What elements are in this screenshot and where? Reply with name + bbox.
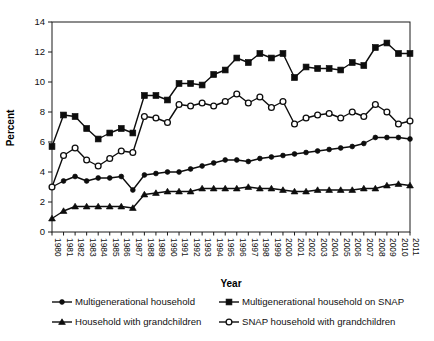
data-point-marker [396,51,402,57]
x-tick-label: 2005 [342,238,352,257]
y-tick-label: 0 [40,226,45,237]
data-point-marker [188,81,194,87]
data-point-marker [61,112,67,118]
data-point-marker [141,93,147,99]
data-point-marker [176,81,182,87]
x-tick-label: 2006 [353,238,363,257]
data-point-marker [96,176,101,181]
x-tick-label: 1995 [226,238,236,257]
x-tick-label: 1996 [238,238,248,257]
data-point-marker [153,93,159,99]
data-point-marker [407,51,413,57]
data-point-marker [245,100,251,106]
data-point-marker [73,174,78,179]
data-point-marker [130,150,136,156]
data-point-marker [234,55,240,61]
data-point-marker [165,170,170,175]
data-point-marker [72,145,78,151]
data-point-marker [222,99,228,105]
data-point-marker [107,176,112,181]
x-tick-label: 2007 [365,238,375,257]
data-point-marker [246,159,251,164]
data-point-marker [130,188,135,193]
series-2 [49,181,414,221]
x-tick-label: 1990 [169,238,179,257]
data-point-marker [327,147,332,152]
legend-item: SNAP household with grandchildren [219,316,395,327]
data-point-marker [257,94,263,100]
x-tick-label: 2004 [330,238,340,257]
x-axis-ticks: 1980198119821983198419851986198719881989… [52,232,421,257]
data-point-marker [269,155,274,160]
x-axis-title: Year [220,278,241,289]
data-point-marker [118,126,124,132]
data-point-marker [153,115,159,121]
x-tick-label: 1984 [99,238,109,257]
y-tick-label: 12 [34,46,45,57]
data-point-marker [165,97,171,103]
x-tick-label: 1989 [157,238,167,257]
data-point-marker [234,91,240,97]
data-point-marker [269,55,275,61]
data-point-marker [361,63,367,69]
data-point-marker [222,67,228,73]
x-tick-label: 1983 [88,238,98,257]
data-point-marker [49,184,55,190]
legend-label: SNAP household with grandchildren [242,316,395,327]
data-point-marker [257,51,263,57]
data-point-marker [211,72,217,78]
x-tick-label: 1991 [180,238,190,257]
y-axis-ticks: 02468101214 [34,16,52,237]
x-tick-label: 2008 [377,238,387,257]
data-point-marker [396,121,402,127]
data-point-marker [141,114,147,120]
legend-item: Multigenerational household on SNAP [219,296,404,307]
data-point-marker [200,164,205,169]
x-tick-label: 2010 [400,238,410,257]
data-point-marker [165,120,171,126]
series-line [52,138,410,191]
data-point-marker [315,112,321,118]
x-tick-label: 1993 [203,238,213,257]
y-tick-label: 8 [40,106,45,117]
data-point-marker [61,153,67,159]
data-point-marker [130,130,136,136]
series-1 [49,40,413,149]
series-0 [50,135,413,192]
data-point-marker [223,158,228,163]
data-point-marker [292,121,298,127]
data-point-marker [95,136,101,142]
y-tick-label: 4 [40,166,45,177]
data-point-marker [257,156,262,161]
data-point-marker [72,114,78,120]
data-point-marker [211,161,216,166]
x-tick-label: 1980 [53,238,63,257]
legend-item: Multigenerational household [52,296,195,307]
x-tick-label: 1997 [250,238,260,257]
data-point-marker [349,109,355,115]
data-point-marker [304,150,309,155]
data-point-marker [292,152,297,157]
x-tick-label: 2009 [388,238,398,257]
data-point-marker [326,66,332,72]
series-line [52,184,410,219]
x-tick-label: 2003 [319,238,329,257]
data-point-marker [211,103,217,109]
chart-axes [52,22,410,232]
data-point-marker [84,126,90,132]
data-point-marker [349,60,355,66]
data-point-marker [315,149,320,154]
data-point-marker [361,141,366,146]
legend-label: Multigenerational household [75,296,195,307]
y-tick-label: 14 [34,16,45,27]
data-point-marker [84,179,89,184]
series-line [52,43,410,147]
data-point-marker [142,173,147,178]
x-tick-label: 1982 [76,238,86,257]
data-point-marker [408,137,413,142]
y-tick-label: 6 [40,136,45,147]
series-3 [49,91,413,190]
data-point-marker [176,102,182,108]
data-point-marker [372,102,378,108]
data-point-marker [119,174,124,179]
